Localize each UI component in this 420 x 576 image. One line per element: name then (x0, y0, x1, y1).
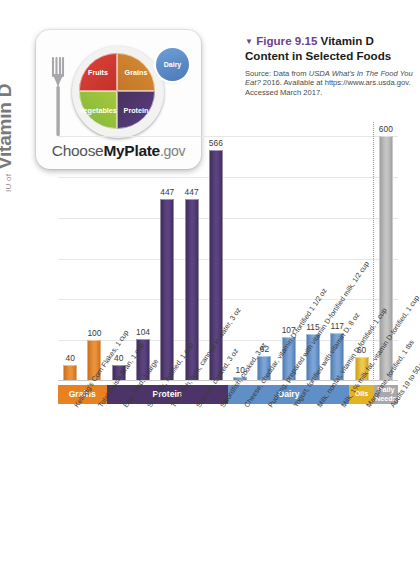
vitamin-d-bar-chart: IU of Vitamin D 401004010444744756610621… (0, 0, 420, 576)
bar-4[interactable] (160, 199, 174, 381)
plot-area: 4010040104447447566106210711511760600 (58, 128, 398, 381)
bar-value-label-0: 40 (58, 353, 82, 363)
bar-value-label-3: 104 (131, 327, 155, 337)
daily-needs-divider (373, 122, 374, 381)
gridline-300 (58, 259, 398, 260)
bar-value-label-13: 600 (374, 124, 398, 134)
gridline-400 (58, 218, 398, 219)
gridline-600 (58, 136, 398, 137)
bar-0[interactable] (63, 365, 77, 381)
y-axis-unit: IU of (4, 174, 13, 192)
y-axis-title: IU of Vitamin D (0, 84, 16, 192)
bar-value-label-5: 447 (179, 187, 203, 197)
x-axis-line (58, 380, 398, 381)
gridline-500 (58, 177, 398, 178)
x-axis-labels: Kellogg's Corn Flakes, 1 cupTotal Raisin… (0, 404, 420, 576)
bar-value-label-1: 100 (82, 328, 106, 338)
bar-value-label-4: 447 (155, 187, 179, 197)
gridline-100 (58, 340, 398, 341)
bar-value-label-6: 566 (204, 138, 228, 148)
y-axis-label: Vitamin D (0, 84, 15, 169)
